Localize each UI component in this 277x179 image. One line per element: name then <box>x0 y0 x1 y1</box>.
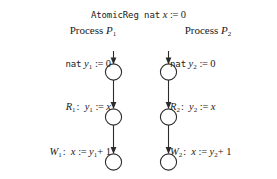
figure-title: AtomicReg nat x := 0 <box>0 4 277 22</box>
edge-label-init-p1: nat y1 := 0 <box>65 54 111 71</box>
process-automaton-p1: nat y1 := 0 R1: y1 := x W1: x := y1+ 1 <box>0 50 140 176</box>
process-heading-p1: Process P1 <box>33 24 153 38</box>
title-assign-op: := <box>170 9 178 20</box>
init-assign-op-p1: := <box>95 58 103 69</box>
process-heading-index-p2: 2 <box>228 30 232 38</box>
edge-label-init-p2: nat y2 := 0 <box>170 54 216 71</box>
process-heading-index-p1: 1 <box>113 30 117 38</box>
edge-label-read-p2: R2: y2 := x <box>170 97 215 114</box>
process-heading-symbol-p1: P <box>106 24 113 36</box>
process-automaton-p2: nat y2 := 0 R2: y2 := x W2: x := y2+ 1 <box>137 50 277 176</box>
init-value-p2: 0 <box>210 58 215 69</box>
figure-canvas: AtomicReg nat x := 0 Process P1 Process … <box>0 0 277 179</box>
arrowhead-write-p1 <box>111 147 117 154</box>
write-op-name-p1: W <box>50 146 59 157</box>
process-heading-word-p2: Process <box>185 24 219 36</box>
edge-label-read-p1: R1: y1 := x <box>66 97 111 114</box>
read-assign-op-p2: := <box>200 101 208 112</box>
write-assign-op-p2: := <box>199 146 207 157</box>
title-type: nat <box>144 10 160 20</box>
arrowhead-init-p1 <box>111 57 117 64</box>
init-assign-op-p2: := <box>199 58 207 69</box>
title-keyword: AtomicReg <box>91 10 139 20</box>
read-expr-p1: x <box>106 101 111 112</box>
process-heading-symbol-p2: P <box>221 24 228 36</box>
write-expr-tail-p2: + 1 <box>218 146 232 157</box>
write-op-name-p2: W <box>170 146 179 157</box>
write-expr-tail-p1: + 1 <box>97 146 111 157</box>
init-type-p2: nat <box>170 59 186 69</box>
init-value-p1: 0 <box>106 58 111 69</box>
process-heading-p2: Process P2 <box>148 24 268 38</box>
edge-label-write-p1: W1: x := y1+ 1 <box>50 142 111 159</box>
title-value: 0 <box>181 9 186 20</box>
init-type-p1: nat <box>65 59 81 69</box>
read-expr-p2: x <box>211 101 216 112</box>
arrowhead-read-p1 <box>111 102 117 109</box>
read-assign-op-p1: := <box>95 101 103 112</box>
process-heading-word-p1: Process <box>70 24 104 36</box>
edge-label-write-p2: W2: x := y2+ 1 <box>170 142 231 159</box>
